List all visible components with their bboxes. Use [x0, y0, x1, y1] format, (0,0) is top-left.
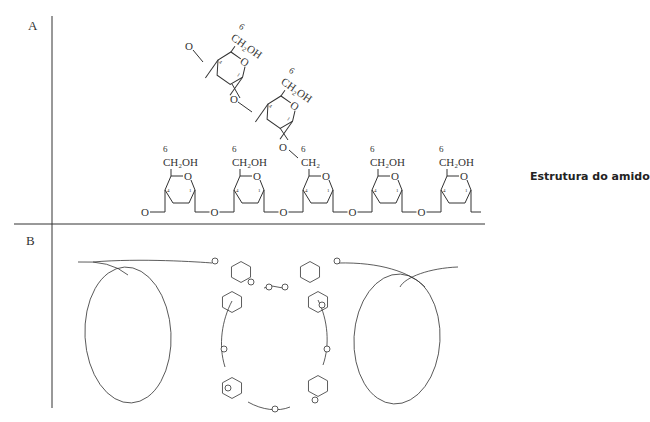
- svg-text:1: 1: [396, 188, 399, 193]
- svg-text:1: 1: [327, 188, 330, 193]
- carbon-6-number: 6: [301, 144, 306, 154]
- oxygen-atom-icon: [312, 397, 318, 403]
- oxygen-atom-icon: [324, 346, 330, 352]
- svg-text:1: 1: [189, 188, 192, 193]
- glycosidic-oxygen: O: [280, 206, 288, 218]
- carbon-6-number: 6: [237, 21, 247, 32]
- svg-text:O: O: [141, 206, 149, 218]
- svg-text:4: 4: [443, 188, 446, 193]
- svg-text:4: 4: [167, 188, 170, 193]
- oxygen-atom-icon: [212, 258, 218, 264]
- oxygen-atom-icon: [319, 302, 325, 308]
- ch2oh-group: CH₂OH: [232, 156, 267, 168]
- svg-text:1: 1: [236, 72, 241, 78]
- ring-oxygen: O: [322, 170, 330, 182]
- helix-oxygen-atoms: [212, 258, 340, 412]
- svg-text:4: 4: [218, 60, 223, 66]
- ch2oh-group: CH₂: [301, 156, 320, 168]
- ch2oh-group: CH₂OH: [163, 156, 198, 168]
- ch2oh-group: CH₂OH: [370, 156, 405, 168]
- svg-text:O: O: [185, 40, 193, 52]
- oxygen-atom-icon: [221, 346, 227, 352]
- oxygen-atom-icon: [334, 258, 340, 264]
- carbon-6-number: 6: [439, 144, 444, 154]
- svg-text:4: 4: [236, 188, 239, 193]
- oxygen-atom-icon: [282, 284, 288, 290]
- glycosidic-oxygen: O: [349, 206, 357, 218]
- svg-text:4: 4: [268, 104, 273, 110]
- carbon-6-number: 6: [370, 144, 375, 154]
- oxygen-atom-icon: [225, 385, 231, 391]
- helix-structure: [78, 260, 458, 409]
- glycosidic-oxygen: O: [418, 206, 426, 218]
- amylose-chain: O6CH₂OH41O6CH₂OH41O6CH₂41O6CH₂OH41O6CH₂O…: [141, 144, 481, 218]
- oxygen-atom-icon: [272, 406, 278, 412]
- ring-oxygen: O: [253, 170, 261, 182]
- svg-text:O: O: [230, 93, 238, 105]
- oxygen-atom-icon: [266, 284, 272, 290]
- ring-oxygen: O: [391, 170, 399, 182]
- carbon-6-number: 6: [232, 144, 237, 154]
- ch2oh-group: CH₂OH: [439, 156, 474, 168]
- svg-text:1: 1: [286, 116, 291, 122]
- oxygen-atom-icon: [248, 279, 254, 285]
- carbon-6-number: 6: [163, 144, 168, 154]
- svg-text:O: O: [279, 141, 287, 153]
- amylopectin-branch: O6CH₂OH41O6CH₂OH41OOO: [185, 21, 321, 158]
- glycosidic-oxygen: O: [211, 206, 219, 218]
- ring-oxygen: O: [288, 99, 301, 113]
- svg-text:1: 1: [465, 188, 468, 193]
- ring-oxygen: O: [184, 170, 192, 182]
- svg-text:1: 1: [258, 188, 261, 193]
- svg-text:4: 4: [305, 188, 308, 193]
- ring-oxygen: O: [460, 170, 468, 182]
- svg-text:4: 4: [374, 188, 377, 193]
- helix-glucose-units: [222, 262, 327, 399]
- ring-oxygen: O: [238, 55, 251, 69]
- carbon-6-number: 6: [287, 65, 297, 76]
